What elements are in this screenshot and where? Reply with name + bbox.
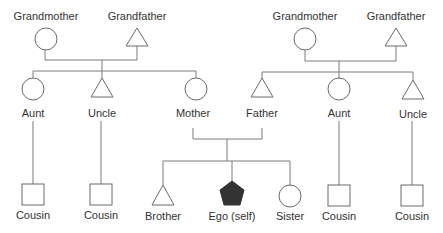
mother-label: Mother [176,107,211,119]
maternal-aunt-circle-icon [22,78,44,100]
brother-triangle-icon [152,185,174,205]
maternal-cousin-2-square-icon [90,184,112,205]
sister-label: Sister [276,210,304,222]
sister-circle-icon [279,185,301,207]
paternal-cousin-1-label: Cousin [322,210,356,222]
maternal-grandfather-triangle-icon [126,28,148,46]
maternal-grandmother-label: Grandmother [14,10,79,22]
kinship-diagram: Grandmother Grandfather Aunt Uncle Mothe… [0,0,443,233]
paternal-aunt-label: Aunt [328,107,351,119]
maternal-cousin-1-square-icon [22,184,44,205]
nuclear-sibling-line [163,161,290,185]
paternal-cousin-2-label: Cousin [395,210,429,222]
maternal-cousin-1-label: Cousin [16,209,50,221]
maternal-grandparents-marriage-line [45,46,137,60]
brother-label: Brother [145,210,181,222]
ego-label: Ego (self) [208,210,255,222]
maternal-uncle-label: Uncle [88,107,116,119]
paternal-grandmother-label: Grandmother [273,10,338,22]
maternal-cousin-2-label: Cousin [84,209,118,221]
paternal-uncle-label: Uncle [399,108,427,120]
paternal-cousin-1-square-icon [328,185,350,206]
paternal-grandparents-marriage-line [305,46,396,61]
father-triangle-icon [251,78,273,97]
paternal-grandfather-triangle-icon [385,28,407,46]
maternal-grandfather-label: Grandfather [108,10,167,22]
paternal-aunt-circle-icon [328,78,350,100]
paternal-grandmother-circle-icon [294,28,316,50]
maternal-aunt-label: Aunt [22,107,45,119]
father-label: Father [246,107,278,119]
parents-marriage-line [193,128,262,139]
paternal-cousin-2-square-icon [401,185,423,206]
maternal-uncle-triangle-icon [91,78,113,97]
maternal-grandmother-circle-icon [35,28,57,50]
maternal-sibling-line [33,71,196,78]
paternal-uncle-triangle-icon [402,80,424,99]
mother-circle-icon [185,78,207,100]
paternal-grandfather-label: Grandfather [367,10,426,22]
ego-pentagon-icon [220,181,244,205]
